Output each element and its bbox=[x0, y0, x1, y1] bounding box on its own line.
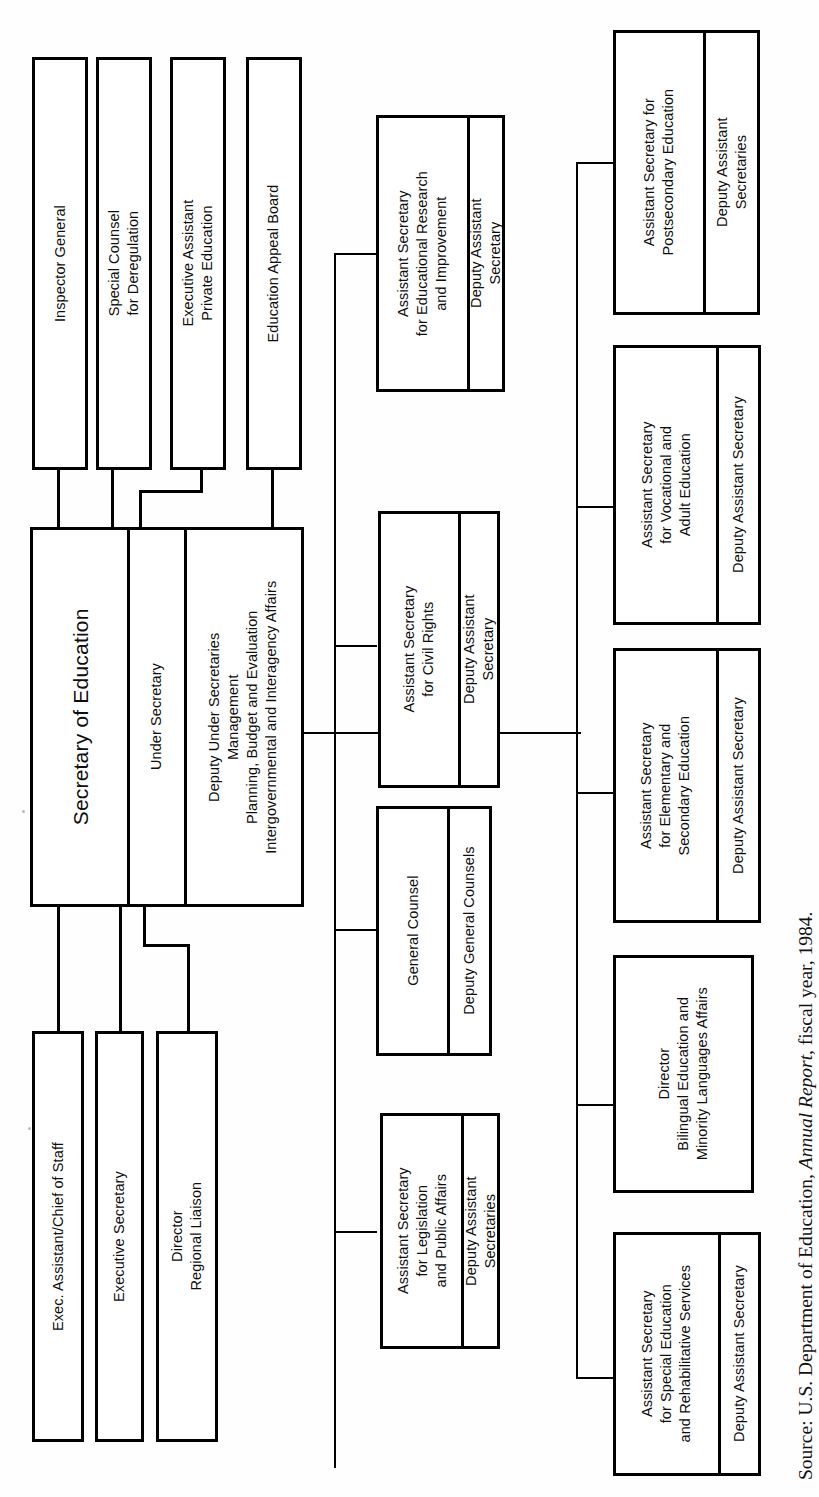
org-box-general-counsel[interactable]: General Counsel Deputy General Counsels bbox=[376, 806, 492, 1056]
source-prefix: Source: U.S. Department of Education, bbox=[795, 1169, 816, 1480]
source-caption: Source: U.S. Department of Education, An… bbox=[795, 912, 817, 1480]
org-box-elementary-secondary-education[interactable]: Assistant Secretaryfor Elementary andSec… bbox=[613, 648, 761, 923]
right-3-head: DirectorBilingual Education andMinority … bbox=[655, 987, 712, 1160]
org-box-postsecondary-education[interactable]: Assistant Secretary forPostsecondary Edu… bbox=[613, 30, 760, 315]
scan-speck bbox=[22, 810, 25, 813]
org-chart-page: Inspector General Special Counselfor Der… bbox=[0, 0, 819, 1497]
staff-box-executive-assistant[interactable]: Executive AssistantPrivate Education bbox=[170, 57, 226, 470]
box-deputy-cell: Deputy Assistant Secretary bbox=[716, 651, 758, 920]
org-box-civil-rights[interactable]: Assistant Secretaryfor Civil Rights Depu… bbox=[378, 511, 500, 788]
box-cell: Special Counselfor Deregulation bbox=[99, 60, 149, 467]
box-deputy-cell: Deputy AssistantSecretaries bbox=[461, 1116, 497, 1346]
box-head-cell: General Counsel bbox=[379, 809, 447, 1053]
staff-bottom-1-label: Executive Secretary bbox=[110, 1171, 129, 1302]
deputy-under-secretaries-cell: Deputy Under SecretariesManagementPlanni… bbox=[184, 530, 301, 904]
middle-branch-legislation-public-affairs bbox=[334, 1231, 377, 1233]
right-2-head: Assistant Secretaryfor Elementary andSec… bbox=[637, 716, 694, 856]
middle-2-head: General Counsel bbox=[403, 876, 422, 986]
staff-bottom-0-label: Exec. Assistant/Chief of Staff bbox=[48, 1142, 67, 1331]
box-head-cell: Assistant Secretaryfor Civil Rights bbox=[381, 514, 458, 785]
box-cell: Executive AssistantPrivate Education bbox=[173, 60, 223, 467]
connector-executive-assistant-drop bbox=[139, 490, 142, 529]
staff-top-0-label: Inspector General bbox=[50, 205, 69, 322]
right-0-head: Assistant Secretary forPostsecondary Edu… bbox=[640, 89, 678, 256]
under-secretary-cell: Under Secretary bbox=[127, 530, 184, 904]
box-head-cell: DirectorBilingual Education andMinority … bbox=[616, 958, 751, 1190]
box-head-cell: Assistant Secretaryfor Legislationand Pu… bbox=[383, 1116, 461, 1346]
box-cell: Inspector General bbox=[35, 60, 85, 467]
org-box-bilingual-education[interactable]: DirectorBilingual Education andMinority … bbox=[613, 955, 754, 1193]
secretary-title-cell: Secretary of Education bbox=[33, 530, 127, 904]
connector-director-regional-liaison-stub bbox=[143, 904, 146, 947]
connector-director-regional-liaison-drop bbox=[187, 944, 190, 1034]
right-branch-elementary-secondary-education bbox=[576, 792, 614, 794]
under-secretary-label: Under Secretary bbox=[147, 663, 166, 770]
box-head-cell: Assistant Secretaryfor Special Education… bbox=[616, 1235, 718, 1473]
staff-box-executive-secretary[interactable]: Executive Secretary bbox=[95, 1031, 144, 1442]
secretary-of-education-box[interactable]: Secretary of Education Under Secretary D… bbox=[30, 527, 304, 907]
box-head-cell: Assistant Secretary forPostsecondary Edu… bbox=[616, 33, 703, 312]
middle-3-head: Assistant Secretaryfor Legislationand Pu… bbox=[393, 1168, 450, 1295]
right-branch-bilingual-education bbox=[576, 1104, 614, 1106]
staff-top-2-label: Executive AssistantPrivate Education bbox=[179, 200, 217, 327]
middle-3-deputy: Deputy AssistantSecretaries bbox=[461, 1176, 497, 1286]
connector-inspector-general bbox=[57, 468, 60, 529]
org-box-educational-research[interactable]: Assistant Secretaryfor Educational Resea… bbox=[376, 115, 505, 392]
staff-box-inspector-general[interactable]: Inspector General bbox=[32, 57, 88, 470]
right-branch-vocational-adult-education bbox=[576, 506, 614, 508]
connector-special-counsel bbox=[111, 468, 114, 529]
middle-branch-general-counsel bbox=[334, 929, 377, 931]
box-cell: Executive Secretary bbox=[98, 1034, 141, 1439]
middle-1-head: Assistant Secretaryfor Civil Rights bbox=[400, 586, 438, 713]
right-column-spine bbox=[576, 162, 578, 1377]
box-deputy-cell: Deputy AssistantSecretaries bbox=[703, 33, 757, 312]
staff-box-exec-assistant-chief-of-staff[interactable]: Exec. Assistant/Chief of Staff bbox=[32, 1031, 84, 1442]
middle-1-deputy: Deputy AssistantSecretary bbox=[460, 595, 497, 705]
right-branch-postsecondary-education bbox=[576, 162, 614, 164]
staff-box-special-counsel[interactable]: Special Counselfor Deregulation bbox=[96, 57, 152, 470]
deputy-under-secretaries-label: Deputy Under SecretariesManagementPlanni… bbox=[206, 580, 283, 853]
source-italic-title: Annual Report bbox=[795, 1055, 816, 1169]
middle-branch-civil-rights bbox=[334, 645, 377, 647]
secretary-title: Secretary of Education bbox=[66, 609, 94, 826]
staff-bottom-2-label: DirectorRegional Liaison bbox=[168, 1182, 206, 1291]
connector-director-regional-liaison-jog bbox=[143, 944, 190, 947]
box-cell: Exec. Assistant/Chief of Staff bbox=[35, 1034, 81, 1439]
right-1-deputy: Deputy Assistant Secretary bbox=[729, 397, 748, 574]
middle-column-spine bbox=[334, 253, 336, 1468]
box-deputy-cell: Deputy AssistantSecretary bbox=[467, 118, 502, 389]
box-deputy-cell: Deputy General Counsels bbox=[447, 809, 489, 1053]
connector-education-appeal-board bbox=[271, 468, 274, 529]
staff-top-3-label: Education Appeal Board bbox=[264, 185, 283, 343]
right-branch-special-education bbox=[576, 1377, 614, 1379]
box-cell: Education Appeal Board bbox=[249, 60, 299, 467]
connector-exec-assistant-chief-of-staff bbox=[57, 904, 60, 1034]
source-suffix: , fiscal year, 1984. bbox=[795, 912, 816, 1055]
middle-2-deputy: Deputy General Counsels bbox=[460, 847, 479, 1015]
connector-executive-assistant-jog bbox=[139, 490, 203, 493]
box-head-cell: Assistant Secretaryfor Elementary andSec… bbox=[616, 651, 716, 920]
staff-box-director-regional-liaison[interactable]: DirectorRegional Liaison bbox=[156, 1031, 218, 1442]
staff-top-1-label: Special Counselfor Deregulation bbox=[105, 210, 143, 316]
right-1-head: Assistant Secretaryfor Vocational andAdu… bbox=[637, 422, 694, 549]
box-deputy-cell: Deputy Assistant Secretary bbox=[716, 348, 758, 622]
right-4-head: Assistant Secretaryfor Special Education… bbox=[638, 1265, 695, 1443]
box-head-cell: Assistant Secretaryfor Educational Resea… bbox=[379, 118, 467, 389]
middle-branch-educational-research bbox=[334, 253, 377, 255]
right-4-deputy: Deputy Assistant Secretary bbox=[730, 1266, 749, 1443]
box-deputy-cell: Deputy Assistant Secretary bbox=[718, 1235, 758, 1473]
right-0-deputy: Deputy AssistantSecretaries bbox=[712, 118, 750, 228]
middle-0-deputy: Deputy AssistantSecretary bbox=[467, 199, 502, 309]
box-deputy-cell: Deputy AssistantSecretary bbox=[458, 514, 497, 785]
box-cell: DirectorRegional Liaison bbox=[159, 1034, 215, 1439]
staff-box-education-appeal-board[interactable]: Education Appeal Board bbox=[246, 57, 302, 470]
connector-executive-secretary bbox=[119, 904, 122, 1034]
middle-0-head: Assistant Secretaryfor Educational Resea… bbox=[394, 171, 451, 336]
box-head-cell: Assistant Secretaryfor Vocational andAdu… bbox=[616, 348, 716, 622]
org-box-vocational-adult-education[interactable]: Assistant Secretaryfor Vocational andAdu… bbox=[613, 345, 761, 625]
scan-speck bbox=[28, 1127, 31, 1130]
org-box-special-education-rehabilitative-services[interactable]: Assistant Secretaryfor Special Education… bbox=[613, 1232, 761, 1476]
org-box-legislation-public-affairs[interactable]: Assistant Secretaryfor Legislationand Pu… bbox=[380, 1113, 500, 1349]
right-2-deputy: Deputy Assistant Secretary bbox=[729, 697, 748, 874]
